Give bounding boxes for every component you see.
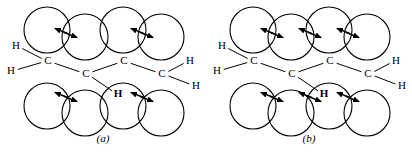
c-c-bond — [299, 63, 324, 71]
vdw-spheres-bottom — [24, 83, 184, 136]
c-c-bond — [55, 63, 80, 71]
molecular-figure: CCCCHHHHH (a) CCCCHHHHH (b) — [0, 0, 412, 161]
c-c-bond — [93, 63, 118, 71]
c-h-bond — [22, 49, 41, 59]
hydrogen-label: H — [398, 79, 406, 91]
hydrogen-label: H — [213, 64, 221, 76]
panel-b-caption: (b) — [206, 132, 412, 144]
panel-a: CCCCHHHHH (a) — [0, 0, 206, 161]
c-h-bond — [298, 77, 318, 91]
carbon-label: C — [250, 54, 257, 66]
steric-arrow — [140, 32, 153, 37]
hydrogen-label: H — [12, 39, 20, 51]
carbon-label: C — [82, 67, 89, 79]
steric-arrow — [346, 32, 359, 37]
c-h-bond — [375, 76, 396, 84]
hydrogen-label: H — [7, 64, 15, 76]
carbon-label: C — [120, 54, 127, 66]
vdw-spheres-bottom — [230, 83, 390, 136]
c-c-bond — [261, 63, 286, 71]
hydrogen-label: H — [218, 39, 226, 51]
carbon-label: C — [44, 54, 51, 66]
hydrogen-label: H — [192, 79, 200, 91]
c-c-bond — [131, 63, 156, 71]
hydrogen-label-bold: H — [114, 87, 123, 99]
hydrogen-label: H — [392, 54, 400, 66]
c-h-bond — [228, 49, 247, 59]
c-h-bond — [18, 63, 41, 70]
panel-a-caption: (a) — [0, 132, 206, 144]
steric-arrow — [270, 32, 283, 37]
carbon-label: C — [326, 54, 333, 66]
c-h-bond — [92, 77, 112, 91]
carbon-label: C — [158, 67, 165, 79]
c-h-bond — [224, 63, 247, 70]
carbon-label: C — [288, 67, 295, 79]
hydrogen-label-bold: H — [320, 87, 329, 99]
steric-arrow — [64, 32, 77, 37]
hydrogen-label: H — [186, 54, 194, 66]
c-c-bond — [337, 63, 362, 71]
panel-b: CCCCHHHHH (b) — [206, 0, 412, 161]
vdw-spheres-top — [24, 7, 184, 60]
carbon-label: C — [364, 67, 371, 79]
c-h-bond — [169, 76, 190, 84]
c-h-bond — [168, 64, 183, 72]
c-h-bond — [374, 64, 389, 72]
